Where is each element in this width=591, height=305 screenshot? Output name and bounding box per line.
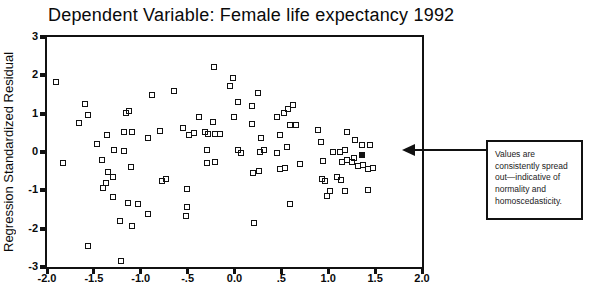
- x-tick-label: -1.0: [124, 272, 158, 284]
- scatter-point: [344, 129, 350, 135]
- y-tick-label: 0: [14, 145, 38, 157]
- annotation-box: Values are consistently spread out—indic…: [486, 140, 583, 220]
- scatter-point: [231, 114, 237, 120]
- scatter-point: [125, 200, 131, 206]
- scatter-point: [282, 165, 288, 171]
- scatter-point: [249, 103, 255, 109]
- scatter-point: [342, 188, 348, 194]
- scatter-point: [293, 122, 299, 128]
- y-tick-label: -3: [14, 260, 38, 272]
- scatter-point: [204, 147, 210, 153]
- scatter-point: [230, 75, 236, 81]
- scatter-point: [85, 243, 91, 249]
- scatter-point: [126, 108, 132, 114]
- y-tick-mark: [40, 112, 45, 116]
- y-tick-label: -1: [14, 183, 38, 195]
- scatter-point: [163, 176, 169, 182]
- scatter-point: [205, 131, 211, 137]
- x-tick-label: 0.0: [218, 272, 252, 284]
- scatter-point: [110, 194, 116, 200]
- y-tick-label: -2: [14, 222, 38, 234]
- scatter-point: [104, 132, 110, 138]
- scatter-point: [118, 258, 124, 264]
- scatter-point: [351, 155, 357, 161]
- scatter-point: [121, 148, 127, 154]
- scatter-point: [184, 204, 190, 210]
- scatter-point: [183, 213, 189, 219]
- y-tick-mark: [40, 227, 45, 231]
- scatter-point: [284, 144, 290, 150]
- scatter-point: [53, 79, 59, 85]
- scatter-point: [171, 88, 177, 94]
- scatter-point: [191, 130, 197, 136]
- annotation-text: Values are consistently spread out—indic…: [495, 149, 568, 206]
- scatter-point: [217, 131, 223, 137]
- scatter-point: [338, 177, 344, 183]
- x-tick-label: -2.0: [30, 272, 64, 284]
- scatter-point: [149, 92, 155, 98]
- scatter-point: [94, 141, 100, 147]
- y-tick-mark: [40, 73, 45, 77]
- scatter-point: [318, 139, 324, 145]
- scatter-point: [210, 119, 216, 125]
- y-tick-mark: [40, 150, 45, 154]
- x-tick-label: -1.5: [77, 272, 111, 284]
- scatter-point: [227, 83, 233, 89]
- scatter-point: [251, 220, 257, 226]
- scatter-point: [235, 99, 241, 105]
- x-tick-label: 2.0: [405, 272, 439, 284]
- scatter-point: [359, 142, 365, 148]
- callout-arrow-icon: [402, 144, 415, 156]
- x-tick-label: .5: [264, 272, 298, 284]
- scatter-point: [196, 114, 202, 120]
- scatter-point: [277, 132, 283, 138]
- scatter-point: [76, 120, 82, 126]
- scatter-point: [184, 186, 190, 192]
- scatter-point: [128, 164, 134, 170]
- y-tick-label: 1: [14, 107, 38, 119]
- x-tick-label: -.5: [171, 272, 205, 284]
- scatter-point: [85, 112, 91, 118]
- scatter-point: [320, 158, 326, 164]
- scatter-point: [204, 160, 210, 166]
- scatter-point: [322, 178, 328, 184]
- scatter-point: [367, 142, 373, 148]
- scatter-point: [111, 147, 117, 153]
- scatter-point: [145, 135, 151, 141]
- scatter-point: [117, 218, 123, 224]
- scatter-point: [274, 114, 280, 120]
- scatter-point: [255, 90, 261, 96]
- callout-arrow-line: [410, 149, 486, 151]
- scatter-point: [129, 129, 135, 135]
- scatter-point: [287, 122, 293, 128]
- scatter-point: [157, 128, 163, 134]
- x-tick-label: 1.5: [358, 272, 392, 284]
- y-tick-mark: [40, 188, 45, 192]
- scatter-point: [212, 159, 218, 165]
- y-tick-label: 3: [14, 30, 38, 42]
- scatter-point: [324, 193, 330, 199]
- scatter-point: [100, 185, 106, 191]
- spss-residual-scatterplot-figure: Dependent Variable: Female life expectan…: [0, 0, 591, 305]
- scatter-point: [315, 127, 321, 133]
- y-tick-mark: [40, 35, 45, 39]
- scatter-point: [186, 132, 192, 138]
- scatter-point: [211, 64, 217, 70]
- scatter-point: [258, 135, 264, 141]
- y-tick-mark: [40, 265, 45, 269]
- scatter-point-filled: [359, 152, 365, 158]
- scatter-point: [82, 101, 88, 107]
- y-tick-label: 2: [14, 68, 38, 80]
- scatter-point: [297, 161, 303, 167]
- scatter-point: [145, 211, 151, 217]
- scatter-point: [365, 187, 371, 193]
- scatter-point: [287, 201, 293, 207]
- scatter-point: [60, 160, 66, 166]
- scatter-point: [330, 149, 336, 155]
- scatter-point: [121, 129, 127, 135]
- scatter-point: [99, 157, 105, 163]
- scatter-point: [274, 150, 280, 156]
- scatter-point: [129, 223, 135, 229]
- scatter-point: [135, 201, 141, 207]
- scatter-point: [180, 125, 186, 131]
